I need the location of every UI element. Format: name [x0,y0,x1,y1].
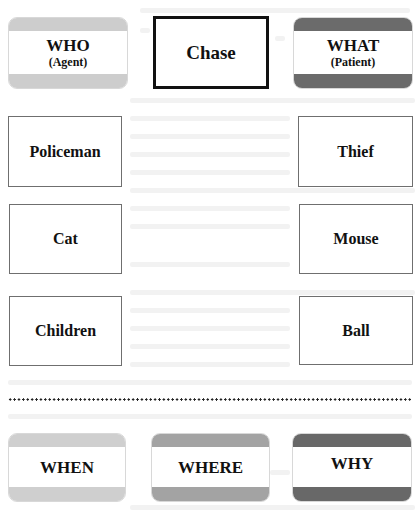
agent-label: Policeman [29,143,100,161]
what-sublabel: (Patient) [331,55,376,70]
where-top-band [152,434,269,447]
who-top-band [9,18,127,31]
who-label: WHO [46,36,89,55]
patient-box-thief: Thief [298,116,413,187]
what-patient-box: WHAT (Patient) [293,17,413,89]
patient-box-ball: Ball [299,296,413,365]
what-top-band [294,18,412,31]
who-sublabel: (Agent) [49,55,88,70]
when-top-band [9,434,125,447]
patient-label: Ball [342,322,370,340]
why-box: WHY [292,433,412,502]
agent-box-children: Children [9,296,122,366]
verb-label: Chase [186,42,236,64]
what-label: WHAT [327,36,380,55]
patient-label: Mouse [333,230,378,248]
what-bottom-band [294,74,412,88]
why-bottom-band [293,487,411,501]
why-top-band [293,434,411,447]
agent-label: Cat [53,230,78,248]
patient-label: Thief [337,143,373,161]
when-box: WHEN [8,433,126,502]
where-label: WHERE [178,458,243,477]
when-bottom-band [9,487,125,501]
agent-label: Children [35,322,96,340]
when-label: WHEN [40,458,94,477]
agent-box-policeman: Policeman [8,116,122,187]
where-bottom-band [152,487,269,501]
why-label: WHY [331,454,374,473]
who-bottom-band [9,74,127,88]
who-agent-box: WHO (Agent) [8,17,128,89]
verb-box: Chase [153,16,269,89]
dotted-divider [8,398,412,401]
agent-box-cat: Cat [9,204,122,274]
where-box: WHERE [151,433,270,502]
patient-box-mouse: Mouse [299,204,413,274]
